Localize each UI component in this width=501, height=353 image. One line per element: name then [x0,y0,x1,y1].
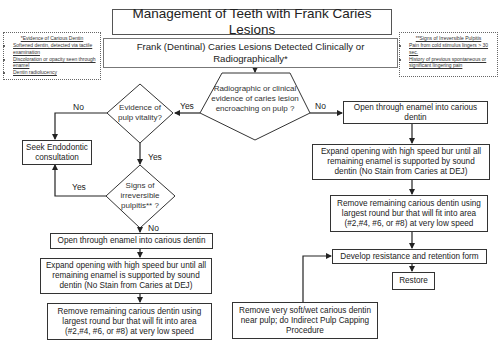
label-no-irreversible: No [148,223,159,233]
page-title: Management of Teeth with Frank Caries Le… [112,9,392,35]
label-no-vitality: No [73,102,84,112]
note-evidence-of-carious-dentin: *Evidence of Carious Dentin Softened den… [3,32,101,80]
decision-pulp-vitality: Evidence of pulp vitality? [116,96,164,130]
label-yes-vitality: Yes [148,152,162,162]
left-open-enamel-box: Open through enamel into carious dentin [50,233,213,249]
indirect-pulp-capping-text: Remove very soft/wet carious dentin near… [236,306,374,336]
decision-encroaching-text: Radiographic or clinical evidence of car… [210,84,300,114]
label-yes-irreversible: Yes [72,182,86,192]
left-open-enamel-text: Open through enamel into carious dentin [58,236,206,246]
seek-endodontic-consultation-box: Seek Endodontic consultation [22,140,92,165]
left-expand-opening-box: Expand opening with high speed bur until… [40,258,212,294]
right-open-enamel-box: Open through enamel into carious dentin [343,101,488,124]
left-remove-dentin-text: Remove remaining carious dentin using la… [51,307,208,337]
restore-box: Restore [392,272,435,290]
seek-endodontic-consultation-text: Seek Endodontic consultation [26,143,88,163]
note-evidence-item: Dentin radiolucency [13,69,97,75]
indirect-pulp-capping-box: Remove very soft/wet carious dentin near… [232,302,378,339]
note-irreversible-item: History of previous spontaneous or signi… [409,56,494,69]
note-evidence-item: Discoloration or opacity seen through en… [13,56,97,69]
note-evidence-heading: *Evidence of Carious Dentin [7,35,97,41]
decision-irreversible-pulpitis-text: Signs of irreversible pulpitis** ? [114,181,166,211]
decision-pulp-vitality-text: Evidence of pulp vitality? [116,103,164,123]
note-signs-of-irreversible-pulpitis: **Signs of Irreversible Pulpitis Pain fr… [399,32,498,77]
right-remove-dentin-text: Remove remaining carious dentin using la… [334,199,484,229]
decision-irreversible-pulpitis: Signs of irreversible pulpitis** ? [114,175,166,217]
right-open-enamel-text: Open through enamel into carious dentin [347,103,484,123]
left-remove-dentin-box: Remove remaining carious dentin using la… [47,303,212,340]
start-box: Frank (Dentinal) Caries Lesions Detected… [103,38,398,68]
right-expand-opening-text: Expand opening with high speed bur until… [316,147,486,177]
right-remove-dentin-box: Remove remaining carious dentin using la… [330,195,488,232]
right-expand-opening-box: Expand opening with high speed bur until… [312,144,490,180]
left-expand-opening-text: Expand opening with high speed bur until… [44,261,208,291]
note-evidence-item: Softened dentin, detected via tactile ex… [13,42,97,55]
restore-text: Restore [399,276,428,286]
label-yes-encroaching: Yes [180,101,194,111]
label-no-encroaching: No [315,101,326,111]
develop-resistance-box: Develop resistance and retention form [332,249,487,264]
note-irreversible-heading: **Signs of Irreversible Pulpitis [403,35,494,41]
note-irreversible-item: Pain from cold stimulus lingers > 30 sec… [409,42,494,55]
decision-encroaching: Radiographic or clinical evidence of car… [210,76,300,122]
develop-resistance-text: Develop resistance and retention form [340,252,478,262]
start-box-text: Frank (Dentinal) Caries Lesions Detected… [116,41,385,65]
page-title-text: Management of Teeth with Frank Caries Le… [116,6,388,38]
